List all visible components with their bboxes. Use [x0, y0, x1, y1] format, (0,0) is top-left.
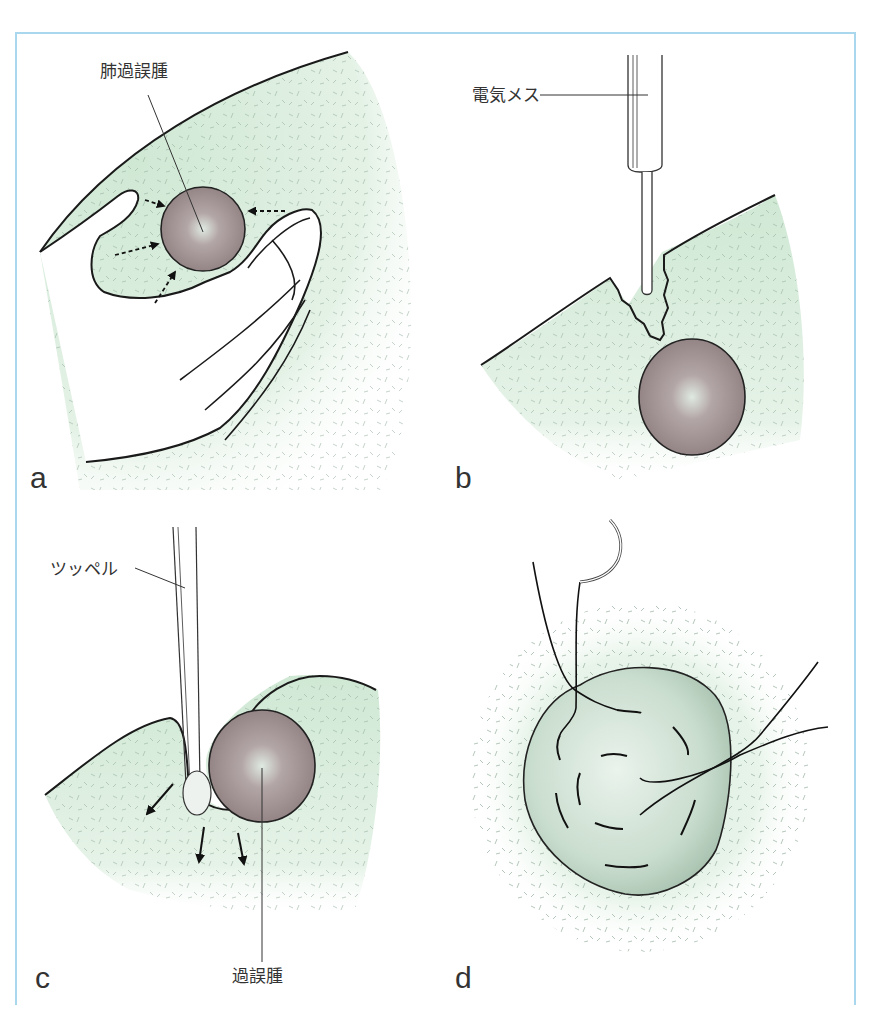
panel-c-drawing	[45, 527, 380, 962]
panel-letter-b: b	[455, 463, 472, 493]
panel-b-drawing	[481, 55, 804, 480]
label-peanut-dissector: ツッペル	[50, 561, 118, 578]
illustration	[0, 0, 869, 1010]
panel-a-drawing	[40, 52, 411, 490]
label-lung-hamartoma: 肺過誤腫	[100, 63, 168, 80]
panel-letter-c: c	[35, 963, 50, 993]
label-hamartoma: 過誤腫	[232, 968, 283, 985]
label-electrocautery: 電気メス	[472, 87, 540, 104]
panel-letter-d: d	[455, 963, 472, 993]
panel-d-drawing	[470, 520, 828, 952]
panel-letter-a: a	[30, 463, 47, 493]
